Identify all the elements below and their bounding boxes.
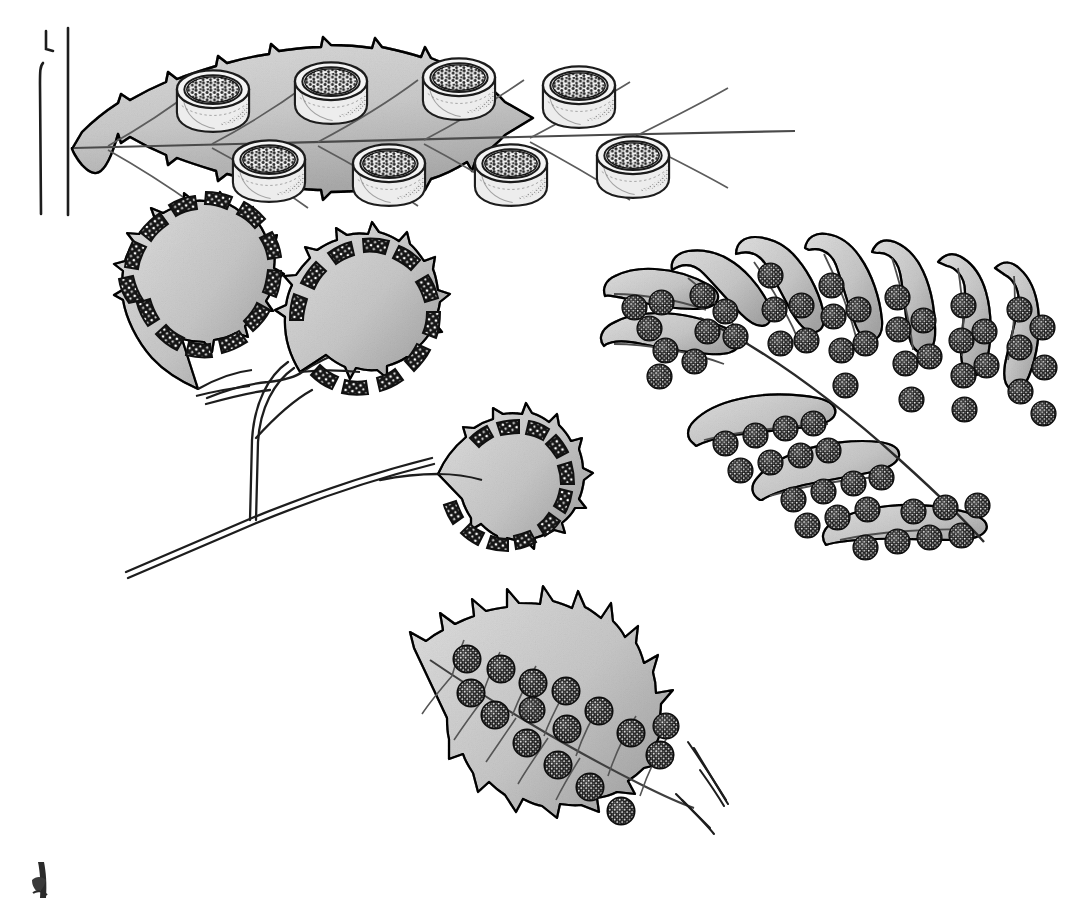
sorus — [885, 285, 910, 310]
sorus — [853, 535, 878, 560]
sorus — [713, 431, 738, 456]
sorus — [647, 364, 672, 389]
sorus — [607, 797, 635, 825]
spore-sack-upper-3 — [423, 58, 495, 119]
spore-sack-lower-4 — [597, 136, 669, 198]
sorus — [965, 493, 990, 518]
spore-sack-upper-4 — [543, 66, 615, 128]
sorus — [893, 351, 918, 376]
sorus — [695, 319, 720, 344]
sorus — [653, 713, 679, 739]
sorus — [1007, 335, 1032, 360]
sorus — [949, 523, 974, 548]
spore-sack-upper-2 — [295, 62, 367, 123]
spore-sack-lower-2 — [353, 144, 425, 206]
spore-sack-lower-1 — [233, 140, 305, 202]
fern-spore-illustration-plate — [0, 0, 1091, 898]
sorus — [457, 679, 485, 707]
sorus — [974, 353, 999, 378]
sorus — [821, 304, 846, 329]
sorus — [1030, 315, 1055, 340]
sorus — [544, 751, 572, 779]
sorus — [653, 338, 678, 363]
sorus — [801, 411, 826, 436]
sorus — [585, 697, 613, 725]
sorus — [553, 715, 581, 743]
sorus — [617, 719, 645, 747]
sorus — [886, 317, 911, 342]
sorus — [917, 525, 942, 550]
sorus — [519, 697, 545, 723]
sorus — [1031, 401, 1056, 426]
sorus — [885, 529, 910, 554]
sorus — [841, 471, 866, 496]
sorus — [819, 273, 844, 298]
sorus — [933, 495, 958, 520]
sorus — [952, 397, 977, 422]
sorus — [951, 293, 976, 318]
sorus — [453, 645, 481, 673]
sorus — [829, 338, 854, 363]
spore-sack-lower-3 — [475, 144, 547, 206]
sorus — [773, 416, 798, 441]
sorus — [576, 773, 604, 801]
sorus — [899, 387, 924, 412]
sorus — [682, 349, 707, 374]
sorus — [795, 513, 820, 538]
sorus — [723, 324, 748, 349]
sorus — [1007, 297, 1032, 322]
sorus — [794, 328, 819, 353]
sorus — [646, 741, 674, 769]
sorus — [855, 497, 880, 522]
sorus — [487, 655, 515, 683]
sorus — [519, 669, 547, 697]
sorus — [972, 319, 997, 344]
sorus — [917, 344, 942, 369]
sorus — [743, 423, 768, 448]
sorus — [513, 729, 541, 757]
sorus — [825, 505, 850, 530]
sorus — [728, 458, 753, 483]
sorus — [649, 290, 674, 315]
sorus — [811, 479, 836, 504]
sorus — [816, 438, 841, 463]
sorus — [622, 295, 647, 320]
sorus — [1008, 379, 1033, 404]
sorus — [713, 299, 738, 324]
sorus — [690, 283, 715, 308]
sorus — [846, 297, 871, 322]
sorus — [758, 450, 783, 475]
sorus — [869, 465, 894, 490]
sorus — [762, 297, 787, 322]
sorus — [768, 331, 793, 356]
sorus — [833, 373, 858, 398]
sorus — [951, 363, 976, 388]
sorus — [911, 308, 936, 333]
sorus — [781, 487, 806, 512]
sorus — [789, 293, 814, 318]
sorus — [758, 263, 783, 288]
sorus — [552, 677, 580, 705]
spore-sack-upper-1 — [177, 70, 249, 132]
sorus — [853, 331, 878, 356]
sorus — [637, 316, 662, 341]
sorus — [481, 701, 509, 729]
sorus — [949, 328, 974, 353]
sorus — [788, 443, 813, 468]
sorus — [901, 499, 926, 524]
sorus — [1032, 355, 1057, 380]
